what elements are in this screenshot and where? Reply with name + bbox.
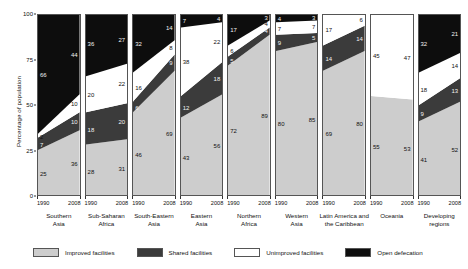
x-axis-years: 19902008: [227, 198, 271, 210]
x-tick-mark-1990: [418, 196, 419, 199]
value-label-1990-open: 17: [230, 27, 237, 33]
panel-bands: [371, 15, 413, 195]
x-tick-label-2008: 2008: [353, 200, 365, 206]
x-tick-label-2008: 2008: [306, 200, 318, 206]
x-tick-label-2008: 2008: [401, 200, 413, 206]
legend-label: Improved facilities: [65, 249, 115, 256]
value-label-1990-shared: 14: [325, 56, 332, 62]
value-label-1990-unimproved: 17: [325, 27, 332, 33]
x-tick-label-1990: 1990: [227, 200, 239, 206]
panel-title: Developingregions: [411, 212, 468, 227]
value-label-2008-improved: 80: [356, 121, 363, 127]
value-label-1990-unimproved: 45: [373, 53, 380, 59]
x-tick-mark-2008: [127, 196, 128, 199]
value-label-1990-improved: 28: [88, 169, 95, 175]
panel-latin-america-and-the-caribbean: 6980141417619902008Latin America andthe …: [322, 14, 366, 196]
panel-title-line-2: the Caribbean: [315, 220, 373, 228]
x-tick-label-1990: 1990: [85, 200, 97, 206]
value-label-1990-shared: 12: [183, 105, 190, 111]
value-label-2008-unimproved: 47: [404, 55, 411, 61]
x-tick-mark-1990: [322, 196, 323, 199]
value-label-1990-improved: 55: [373, 144, 380, 150]
value-label-1990-open: 7: [183, 18, 186, 24]
x-tick-mark-2008: [413, 196, 414, 199]
value-label-1990-open: 66: [40, 72, 47, 78]
legend-item-improved-facilities[interactable]: Improved facilities: [33, 248, 115, 257]
x-tick-mark-2008: [317, 196, 318, 199]
x-tick-label-2008: 2008: [68, 200, 80, 206]
value-label-1990-unimproved: 20: [88, 92, 95, 98]
value-label-2008-unimproved: 8: [169, 45, 172, 51]
panel-plot: 69801414176: [322, 14, 366, 196]
y-tick-mark-100: [34, 14, 37, 15]
panel-sub-saharan-africa: 283118202022362719902008Sub-SaharanAfric…: [85, 14, 129, 196]
x-axis-years: 19902008: [132, 198, 176, 210]
x-tick-label-2008: 2008: [258, 200, 270, 206]
x-tick-mark-2008: [222, 196, 223, 199]
value-label-1990-improved: 46: [135, 152, 142, 158]
legend-item-open-defecation[interactable]: Open defecation: [345, 248, 422, 257]
x-tick-label-1990: 1990: [132, 200, 144, 206]
value-label-2008-improved: 31: [118, 166, 125, 172]
legend-label: Unimproved facilities: [266, 249, 323, 256]
x-tick-mark-2008: [460, 196, 461, 199]
value-label-1990-improved: 80: [278, 121, 285, 127]
y-axis-ticks: 0255075100: [14, 14, 36, 196]
panel-oceania: 5553454719902008Oceania: [370, 14, 414, 196]
value-label-2008-open: 3: [264, 15, 267, 21]
value-label-2008-improved: 56: [214, 143, 221, 149]
x-tick-label-1990: 1990: [418, 200, 430, 206]
panel-northern-africa: 7289546417319902008NorthernAfrica: [227, 14, 271, 196]
legend-item-unimproved-facilities[interactable]: Unimproved facilities: [234, 248, 323, 257]
panel-title-line-1: Developing: [411, 212, 468, 220]
value-label-2008-unimproved: 22: [118, 81, 125, 87]
y-tick-mark-75: [34, 59, 37, 60]
value-label-1990-shared: 5: [230, 58, 233, 64]
value-label-2008-open: 27: [118, 37, 125, 43]
sanitation-area-chart: Percentage of population 0255075100 2536…: [0, 0, 468, 269]
value-label-1990-shared: 6: [135, 105, 138, 111]
x-axis-years: 19902008: [85, 198, 129, 210]
panel-plot: 25367102106644: [37, 14, 81, 196]
value-label-2008-shared: 4: [264, 28, 267, 34]
value-label-1990-unimproved: 16: [135, 85, 142, 91]
value-label-1990-improved: 43: [183, 155, 190, 161]
value-label-2008-unimproved: 7: [312, 24, 315, 30]
chart-legend: Improved facilitiesShared facilitiesUnim…: [33, 248, 445, 257]
panel-bands: [323, 15, 365, 195]
panel-plot: 55534547: [370, 14, 414, 196]
value-label-1990-shared: 18: [88, 127, 95, 133]
legend-item-shared-facilities[interactable]: Shared facilities: [137, 248, 213, 257]
x-tick-label-2008: 2008: [211, 200, 223, 206]
legend-swatch-icon: [33, 248, 59, 257]
value-label-2008-open: 21: [451, 31, 458, 37]
y-tick-mark-50: [34, 105, 37, 106]
y-tick-label-100: 100: [23, 11, 33, 17]
x-tick-label-1990: 1990: [275, 200, 287, 206]
value-label-1990-open: 32: [135, 41, 142, 47]
value-label-2008-shared: 18: [214, 76, 221, 82]
x-axis-years: 19902008: [180, 198, 224, 210]
x-tick-mark-2008: [175, 196, 176, 199]
value-label-2008-unimproved: 22: [214, 39, 221, 45]
value-label-2008-improved: 85: [309, 117, 316, 123]
value-label-2008-open: 4: [217, 16, 220, 22]
x-axis-years: 19902008: [370, 198, 414, 210]
value-label-1990-unimproved: 38: [183, 59, 190, 65]
value-label-2008-unimproved: 10: [71, 101, 78, 107]
x-axis-years: 19902008: [418, 198, 462, 210]
x-axis-years: 19902008: [275, 198, 319, 210]
value-label-2008-shared: 14: [356, 36, 363, 42]
value-label-2008-improved: 69: [166, 131, 173, 137]
panel-plot: 4669691683214: [132, 14, 176, 196]
y-tick-label-75: 75: [26, 57, 33, 63]
value-label-1990-open: 4: [278, 16, 281, 22]
x-tick-mark-1990: [37, 196, 38, 199]
x-tick-mark-1990: [370, 196, 371, 199]
legend-label: Shared facilities: [169, 249, 213, 256]
value-label-2008-open: 14: [166, 25, 173, 31]
legend-swatch-icon: [234, 248, 260, 257]
value-label-1990-shared: 7: [40, 142, 43, 148]
value-label-1990-unimproved: 7: [278, 26, 281, 32]
x-tick-mark-1990: [180, 196, 181, 199]
